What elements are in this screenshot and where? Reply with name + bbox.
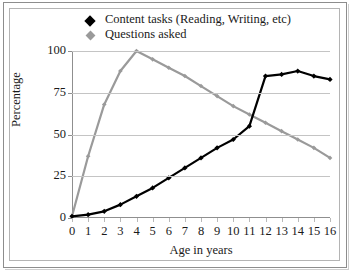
- legend-marker-diamond-gray: [85, 28, 98, 41]
- x-tick-label: 10: [225, 224, 241, 238]
- x-tick-label-text: 0: [64, 224, 80, 238]
- y-tick-label-text: 75: [32, 86, 66, 99]
- x-tick-mark: [88, 218, 89, 222]
- x-tick-mark: [185, 218, 186, 222]
- x-tick-mark: [233, 218, 234, 222]
- x-tick-label-text: 10: [225, 224, 241, 238]
- x-tick-mark: [169, 218, 170, 222]
- x-tick-label: 2: [96, 224, 112, 238]
- x-tick-label-text: 12: [258, 224, 274, 238]
- legend-marker-diamond-black: [85, 13, 98, 26]
- x-tick-label-text: 1: [80, 224, 96, 238]
- x-tick-label: 12: [258, 224, 274, 238]
- y-gridline: [72, 176, 330, 177]
- x-tick-label-text: 6: [161, 224, 177, 238]
- x-axis-title: Age in years: [72, 243, 330, 258]
- x-tick-label: 7: [177, 224, 193, 238]
- series-data-point: [263, 73, 268, 78]
- x-tick-label: 6: [161, 224, 177, 238]
- x-tick-mark: [104, 218, 105, 222]
- x-tick-label-text: 7: [177, 224, 193, 238]
- x-tick-label: 0: [64, 224, 80, 238]
- series-data-point: [86, 212, 91, 217]
- chart-legend: Content tasks (Reading, Writing, etc) Qu…: [85, 12, 335, 42]
- y-tick-label-text: 0: [32, 211, 66, 224]
- x-tick-label: 5: [145, 224, 161, 238]
- y-tick-label-text: 50: [32, 128, 66, 141]
- x-tick-label: 14: [290, 224, 306, 238]
- legend-item-content-tasks: Content tasks (Reading, Writing, etc): [85, 12, 335, 27]
- legend-label-questions-asked: Questions asked: [105, 28, 187, 41]
- y-tick-label: 50: [32, 128, 66, 141]
- x-tick-label: 3: [112, 224, 128, 238]
- y-tick-label: 0: [32, 211, 66, 224]
- y-tick-mark: [68, 93, 72, 94]
- x-tick-label-text: 11: [241, 224, 257, 238]
- y-tick-mark: [68, 135, 72, 136]
- y-tick-label: 25: [32, 169, 66, 182]
- x-tick-label-text: 3: [112, 224, 128, 238]
- x-tick-label-text: 5: [145, 224, 161, 238]
- plot-area: 0255075100012345678910111213141516: [72, 51, 330, 218]
- series-data-point: [311, 73, 316, 78]
- y-tick-label-text: 25: [32, 169, 66, 182]
- legend-item-questions-asked: Questions asked: [85, 27, 335, 42]
- y-gridline: [72, 93, 330, 94]
- x-tick-mark: [120, 218, 121, 222]
- legend-label-content-tasks: Content tasks (Reading, Writing, etc): [105, 13, 291, 26]
- x-tick-mark: [298, 218, 299, 222]
- x-tick-mark: [249, 218, 250, 222]
- series-data-point: [295, 68, 300, 73]
- x-tick-mark: [201, 218, 202, 222]
- y-axis-title: Percentage: [9, 40, 24, 160]
- x-tick-label-text: 9: [209, 224, 225, 238]
- x-tick-label: 11: [241, 224, 257, 238]
- x-tick-label: 13: [274, 224, 290, 238]
- x-tick-mark: [153, 218, 154, 222]
- x-tick-label-text: 16: [322, 224, 338, 238]
- y-tick-label-text: 100: [32, 44, 66, 57]
- series-data-point: [279, 72, 284, 77]
- y-tick-mark: [68, 51, 72, 52]
- x-tick-mark: [137, 218, 138, 222]
- x-tick-mark: [217, 218, 218, 222]
- x-tick-label: 16: [322, 224, 338, 238]
- chart-figure: Content tasks (Reading, Writing, etc) Qu…: [0, 0, 351, 273]
- x-tick-label: 15: [306, 224, 322, 238]
- y-tick-mark: [68, 176, 72, 177]
- x-tick-mark: [72, 218, 73, 222]
- y-tick-label: 100: [32, 44, 66, 57]
- x-tick-label-text: 14: [290, 224, 306, 238]
- x-tick-mark: [266, 218, 267, 222]
- x-tick-mark: [314, 218, 315, 222]
- y-gridline: [72, 135, 330, 136]
- x-tick-label: 1: [80, 224, 96, 238]
- x-tick-label-text: 4: [129, 224, 145, 238]
- x-tick-label-text: 15: [306, 224, 322, 238]
- y-gridline: [72, 51, 330, 52]
- y-tick-label: 75: [32, 86, 66, 99]
- x-tick-label: 4: [129, 224, 145, 238]
- x-tick-label: 9: [209, 224, 225, 238]
- x-tick-mark: [330, 218, 331, 222]
- x-tick-mark: [282, 218, 283, 222]
- x-tick-label-text: 8: [193, 224, 209, 238]
- x-tick-label-text: 13: [274, 224, 290, 238]
- x-tick-label-text: 2: [96, 224, 112, 238]
- x-tick-label: 8: [193, 224, 209, 238]
